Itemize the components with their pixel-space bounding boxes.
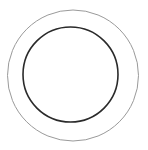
inner-circle: [23, 27, 118, 122]
concentric-circles-diagram: [0, 0, 148, 150]
